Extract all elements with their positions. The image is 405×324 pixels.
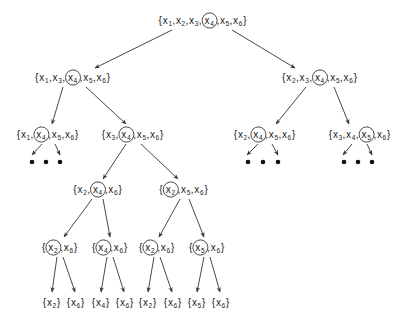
tree-edge-arrow [189,199,204,237]
variable-x: x [194,184,199,195]
comma: , [93,72,96,83]
variable-subscript: 4 [210,20,214,27]
brace-open: { [92,242,96,253]
variable-subscript: 6 [156,134,160,141]
variable-x: x [120,297,125,308]
variable-subscript: 5 [201,247,205,254]
brace-close: } [57,297,61,308]
tree-node-L2b: {x3,x4,x5,x6} [102,127,164,142]
ellipsis-dot [261,160,266,165]
brace-close: } [205,184,209,195]
tree-node-L2d: {x3,x4,x5,x6} [329,127,391,142]
brace-close: } [292,129,296,140]
variable-x: x [97,72,102,83]
tree-node-L4c: {x2,x6} [139,240,175,255]
variable-x: x [205,15,210,26]
tree-node-leaf5: {x2} [139,297,157,310]
comma: , [343,129,346,140]
ellipsis-dot [58,160,63,165]
brace-close: } [130,297,134,308]
tree-edge-arrow [148,257,154,292]
variable-x: x [93,184,98,195]
tree-node-L3b: {x2,x5,x6} [159,182,208,197]
comma: , [207,242,210,253]
variable-x: x [78,184,83,195]
ellipsis-dot [342,160,347,165]
variable-subscript: 4 [99,189,103,196]
variable-subscript: 6 [174,302,178,309]
variable-subscript: 2 [171,189,175,196]
variable-x: x [52,129,57,140]
variable-x: x [121,129,126,140]
variable-x: x [189,15,194,26]
variable-subscript: 6 [114,189,118,196]
variable-subscript: 4 [321,77,325,84]
brace-open: { [42,242,46,253]
tree-edge-arrow [232,30,295,68]
variable-subscript: 2 [149,302,153,309]
variable-x: x [114,242,119,253]
comma: , [278,129,281,140]
comma: , [146,129,149,140]
brace-close: } [178,297,182,308]
variable-subscript: 2 [151,247,155,254]
brace-close: } [75,129,79,140]
comma: , [265,129,268,140]
variable-subscript: 6 [126,302,130,309]
tree-edge-arrow [210,257,220,292]
tree-edge-arrow [113,257,124,292]
tree-node-L4b: {x4,x6} [92,240,128,255]
variable-x: x [211,242,216,253]
variable-x: x [98,242,103,253]
variable-x: x [220,15,225,26]
variable-subscript: 6 [71,134,75,141]
variable-x: x [315,72,320,83]
variable-subscript: 6 [216,247,220,254]
ellipsis-dot [276,160,281,165]
variable-subscript: 4 [127,134,131,141]
brace-close: } [243,15,247,26]
variable-x: x [47,297,52,308]
brace-close: } [354,72,358,83]
tree-edge-arrow [141,144,178,179]
variable-x: x [53,72,58,83]
comma: , [133,129,136,140]
variable-subscript: 6 [349,77,353,84]
comma: , [296,72,299,83]
tree-edge-arrow [63,257,75,292]
tree-nodes: {x1,x2,x3,x4,x5,x6}{x1,x3,x4,x5,x6}{x2,x… [17,13,391,309]
variable-x: x [192,297,197,308]
tree-edge-arrow [159,199,180,237]
tree-edge-arrow [103,199,110,237]
tree-edge-arrow [272,144,278,155]
tree-node-L2a: {x1,x4,x5,x6} [17,127,79,142]
brace-close: } [226,297,230,308]
variable-x: x [143,297,148,308]
brace-close: } [160,129,164,140]
tree-node-leaf7: {x5} [188,297,206,310]
comma: , [49,72,52,83]
variable-x: x [163,15,168,26]
tree-edge-arrow [32,144,42,155]
variable-subscript: 6 [102,77,106,84]
variable-x: x [362,129,367,140]
tree-edge-arrow [334,87,349,124]
brace-open: { [189,242,193,253]
variable-subscript: 6 [288,134,292,141]
variable-subscript: 5 [367,134,371,141]
brace-open: { [139,242,143,253]
variable-x: x [106,129,111,140]
comma: , [356,129,359,140]
tree-edge-arrow [52,87,63,124]
comma: , [116,129,119,140]
variable-x: x [195,242,200,253]
variable-subscript: 6 [77,302,81,309]
comma: , [60,242,63,253]
brace-close: } [202,297,206,308]
variable-x: x [269,129,274,140]
comma: , [80,72,83,83]
brace-open: { [159,184,163,195]
brace-close: } [81,297,85,308]
comma: , [110,242,113,253]
variable-x: x [137,129,142,140]
